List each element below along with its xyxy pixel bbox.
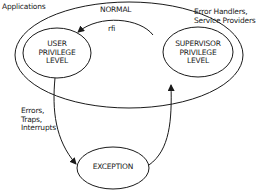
errors-traps-interrupts-arrow <box>54 78 76 164</box>
service-providers-line: Service Providers <box>194 17 256 26</box>
level-line: LEVEL <box>172 57 224 66</box>
error-handlers-label: Error Handlers, Service Providers <box>194 8 256 25</box>
exception-to-supervisor-arrow <box>149 85 171 165</box>
errors-traps-interrupts-label: Errors, Traps, Interrupts <box>21 107 56 133</box>
interrupts-line: Interrupts <box>21 124 56 133</box>
user-privilege-label: USER PRIVILEGE LEVEL <box>35 40 79 66</box>
supervisor-privilege-label: SUPERVISOR PRIVILEGE LEVEL <box>172 40 224 66</box>
applications-label: Applications <box>2 3 45 12</box>
normal-state-label: NORMAL <box>100 6 131 15</box>
exception-label: EXCEPTION <box>85 163 141 172</box>
level-line: LEVEL <box>35 57 79 66</box>
rfi-arrow <box>78 20 153 35</box>
rfi-label: rfi <box>108 25 115 34</box>
